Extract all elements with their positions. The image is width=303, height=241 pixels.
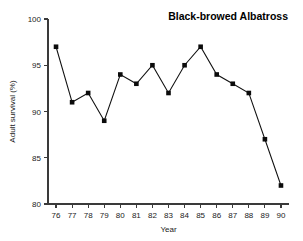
y-tick-label: 95 — [32, 61, 41, 70]
x-tick-label: 84 — [180, 211, 189, 220]
data-point-marker — [70, 100, 75, 105]
data-point-marker — [263, 137, 268, 142]
data-point-marker — [54, 44, 59, 49]
data-point-marker — [279, 183, 284, 188]
x-tick-label: 79 — [100, 211, 109, 220]
x-tick-label: 83 — [164, 211, 173, 220]
x-tick-label: 85 — [196, 211, 205, 220]
x-tick-label: 87 — [228, 211, 237, 220]
x-tick-label: 81 — [132, 211, 141, 220]
data-point-marker — [198, 44, 203, 49]
line-chart: 8085909510076777879808182838485868788899… — [0, 0, 303, 241]
x-tick-label: 78 — [84, 211, 93, 220]
y-tick-label: 90 — [32, 108, 41, 117]
series-line-adult-survival — [56, 47, 281, 186]
x-tick-label: 82 — [148, 211, 157, 220]
x-tick-label: 80 — [116, 211, 125, 220]
x-axis-title: Year — [160, 225, 177, 234]
data-point-marker — [166, 91, 171, 96]
x-tick-label: 88 — [244, 211, 253, 220]
chart-title: Black-browed Albatross — [168, 10, 288, 22]
x-tick-label: 90 — [277, 211, 286, 220]
data-point-marker — [214, 72, 219, 77]
x-tick-label: 86 — [212, 211, 221, 220]
data-point-marker — [230, 81, 235, 86]
y-axis-title: Adult survival (%) — [8, 80, 17, 143]
y-tick-label: 80 — [32, 200, 41, 209]
data-point-marker — [247, 91, 252, 96]
x-tick-label: 89 — [260, 211, 269, 220]
data-point-marker — [118, 72, 123, 77]
chart-figure: 8085909510076777879808182838485868788899… — [0, 0, 303, 241]
data-point-marker — [182, 63, 187, 68]
x-tick-label: 76 — [52, 211, 61, 220]
data-point-marker — [102, 118, 107, 123]
data-point-marker — [150, 63, 155, 68]
data-point-marker — [134, 81, 139, 86]
y-tick-label: 85 — [32, 154, 41, 163]
x-tick-label: 77 — [68, 211, 77, 220]
data-point-marker — [86, 91, 91, 96]
y-tick-label: 100 — [28, 15, 42, 24]
